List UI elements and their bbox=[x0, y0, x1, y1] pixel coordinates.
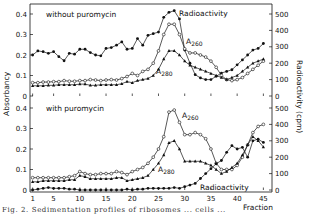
svg-text:0.2: 0.2 bbox=[16, 52, 27, 60]
bottom-a260-label: A260 bbox=[182, 111, 199, 121]
svg-text:0: 0 bbox=[275, 93, 279, 101]
svg-text:15: 15 bbox=[102, 195, 111, 203]
svg-text:100: 100 bbox=[275, 76, 288, 84]
svg-text:0: 0 bbox=[23, 93, 27, 101]
bottom-a280-label: A280 bbox=[158, 165, 175, 175]
svg-text:10: 10 bbox=[75, 195, 84, 203]
sedimentation-chart: 00.10.20.30.4010020030040050000.10.20.30… bbox=[0, 0, 310, 216]
y-axis-left-label: Absorbancy bbox=[2, 71, 11, 116]
svg-text:500: 500 bbox=[275, 11, 288, 19]
svg-text:500: 500 bbox=[275, 105, 288, 113]
svg-text:0: 0 bbox=[275, 187, 279, 195]
svg-text:0: 0 bbox=[23, 187, 27, 195]
x-axis-label: Fraction bbox=[243, 203, 273, 212]
svg-text:40: 40 bbox=[233, 195, 242, 203]
svg-text:100: 100 bbox=[275, 170, 288, 178]
svg-text:300: 300 bbox=[275, 137, 288, 145]
svg-text:0.2: 0.2 bbox=[16, 146, 27, 154]
svg-text:20: 20 bbox=[128, 195, 137, 203]
bottom-panel-plot bbox=[31, 109, 265, 192]
svg-text:400: 400 bbox=[275, 27, 288, 35]
svg-text:5: 5 bbox=[51, 195, 55, 203]
top-panel-title: without puromycin bbox=[46, 10, 117, 19]
svg-text:0.4: 0.4 bbox=[16, 105, 28, 113]
svg-text:0.1: 0.1 bbox=[16, 166, 27, 174]
svg-text:300: 300 bbox=[275, 43, 288, 51]
svg-text:30: 30 bbox=[180, 195, 189, 203]
svg-text:0.3: 0.3 bbox=[16, 125, 27, 133]
svg-text:200: 200 bbox=[275, 154, 288, 162]
bottom-panel-title: with puromycin bbox=[46, 104, 104, 113]
svg-text:0.4: 0.4 bbox=[16, 11, 28, 19]
svg-text:0.3: 0.3 bbox=[16, 31, 27, 39]
svg-text:25: 25 bbox=[154, 195, 163, 203]
svg-text:45: 45 bbox=[259, 195, 268, 203]
svg-text:0.1: 0.1 bbox=[16, 72, 27, 80]
top-radioactivity-label: Radioactivity bbox=[179, 9, 228, 18]
bottom-radioactivity-label: Radioactivity bbox=[200, 183, 249, 192]
svg-text:200: 200 bbox=[275, 60, 288, 68]
y-axis-right-label: Radioactivity (cpm) bbox=[295, 60, 304, 133]
top-panel-plot bbox=[31, 9, 265, 87]
top-a260-label: A260 bbox=[186, 37, 203, 47]
svg-text:1: 1 bbox=[30, 195, 34, 203]
svg-text:35: 35 bbox=[206, 195, 215, 203]
figure-caption: Fig. 2. Sedimentation profiles of riboso… bbox=[2, 206, 226, 214]
figure: 00.10.20.30.4010020030040050000.10.20.30… bbox=[0, 0, 310, 216]
svg-text:400: 400 bbox=[275, 121, 288, 129]
top-a280-label: A280 bbox=[156, 67, 173, 77]
